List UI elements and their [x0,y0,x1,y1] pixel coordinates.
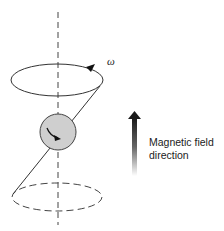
field-arrow-icon [128,111,141,119]
field-arrow-shaft [132,118,137,176]
field-label-line2: direction [149,149,189,162]
field-label-line1: Magnetic field [149,136,214,149]
precession-orbit-bottom [12,183,102,211]
nucleus-sphere [40,114,76,150]
omega-label: ω [107,55,115,67]
precession-diagram: ω Magnetic field direction [0,0,224,231]
diagram-graphic [0,0,224,231]
